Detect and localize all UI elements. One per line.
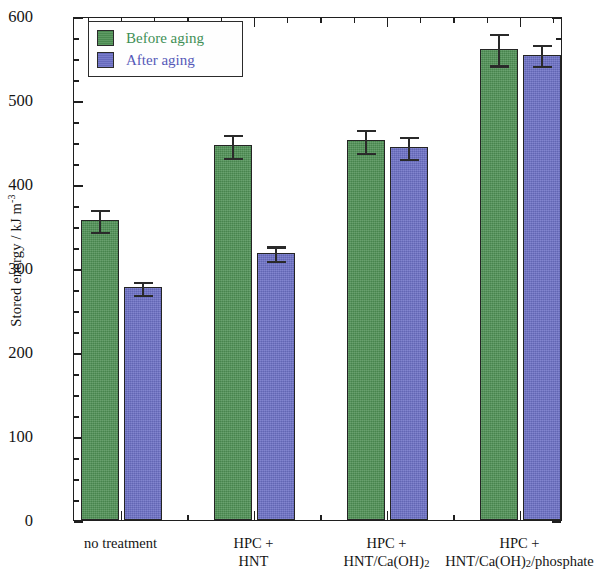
error-bar-cap-upper — [91, 210, 110, 212]
bar-after-aging — [390, 147, 428, 520]
x-tick-major — [387, 511, 388, 520]
y-tick-minor — [74, 311, 79, 312]
legend-label-after-aging: After aging — [126, 53, 195, 68]
x-tick-minor — [487, 18, 488, 23]
error-bar-cap-upper — [533, 45, 552, 47]
y-tick-label: 0 — [25, 511, 33, 531]
y-tick-major — [74, 185, 83, 186]
y-tick-minor — [74, 248, 79, 249]
y-tick-label: 600 — [8, 7, 33, 27]
bar-before-aging — [81, 220, 119, 520]
y-tick-minor — [74, 227, 79, 228]
y-tick-major — [74, 521, 83, 522]
x-tick-minor — [320, 515, 321, 520]
y-tick-label: 300 — [8, 259, 33, 279]
x-tick-minor — [453, 515, 454, 520]
x-tick-major — [254, 511, 255, 520]
y-tick-minor — [74, 164, 79, 165]
x-tick-major — [520, 18, 521, 27]
bar-before-aging — [480, 49, 518, 520]
x-category-label: HPC +HNT/Ca(OH)2 — [344, 535, 430, 570]
y-tick-minor — [74, 290, 79, 291]
y-tick-minor — [74, 416, 79, 417]
x-tick-major — [520, 511, 521, 520]
y-tick-minor — [74, 500, 79, 501]
plot-area: Before aging After aging — [73, 17, 562, 521]
y-tick-minor — [74, 59, 79, 60]
y-tick-label: 400 — [8, 175, 33, 195]
y-tick-minor — [74, 206, 79, 207]
y-tick-label: 100 — [8, 427, 33, 447]
bar-before-aging — [214, 145, 252, 520]
x-category-label: no treatment — [84, 535, 157, 553]
y-tick-minor — [74, 332, 79, 333]
error-bar-cap-upper — [134, 282, 153, 284]
y-tick-major — [74, 17, 83, 18]
error-bar-cap-upper — [267, 246, 286, 248]
y-tick-major — [74, 101, 83, 102]
y-tick-minor — [74, 38, 79, 39]
legend-item-before-aging: Before aging — [97, 27, 236, 49]
x-tick-minor — [287, 18, 288, 23]
y-tick-label: 200 — [8, 343, 33, 363]
x-tick-minor — [420, 18, 421, 23]
error-bar-cap-upper — [490, 34, 509, 36]
x-tick-minor — [354, 18, 355, 23]
y-axis-title-exponent: -3 — [6, 194, 17, 203]
legend-swatch-after-aging — [97, 52, 114, 68]
bar-after-aging — [257, 253, 295, 520]
x-tick-minor — [320, 18, 321, 23]
y-tick-minor — [74, 479, 79, 480]
x-tick-major — [387, 18, 388, 27]
y-tick-minor — [74, 458, 79, 459]
x-category-label: HPC +HNT/Ca(OH)2/phosphate — [445, 535, 594, 570]
bar-after-aging — [523, 55, 561, 520]
x-tick-major — [254, 18, 255, 27]
y-tick-minor — [74, 122, 79, 123]
y-tick-minor — [74, 80, 79, 81]
legend-label-before-aging: Before aging — [126, 31, 204, 46]
y-tick-minor — [74, 143, 79, 144]
legend-item-after-aging: After aging — [97, 49, 236, 71]
stored-energy-bar-chart: Stored energy / kJ m-3 01002003004005006… — [0, 0, 615, 576]
bar-before-aging — [347, 140, 385, 520]
x-tick-major — [121, 511, 122, 520]
legend: Before aging After aging — [88, 21, 243, 77]
error-bar-cap-upper — [357, 130, 376, 132]
x-tick-minor — [553, 18, 554, 23]
x-category-label: HPC +HNT — [233, 535, 273, 570]
y-tick-minor — [74, 374, 79, 375]
x-tick-minor — [453, 18, 454, 23]
bar-after-aging — [124, 287, 162, 520]
error-bar-cap-upper — [400, 137, 419, 139]
error-bar-cap-upper — [224, 135, 243, 137]
y-tick-minor — [556, 38, 561, 39]
y-tick-major — [552, 521, 561, 522]
y-tick-label: 500 — [8, 91, 33, 111]
y-tick-minor — [74, 395, 79, 396]
x-tick-minor — [187, 515, 188, 520]
legend-swatch-before-aging — [97, 30, 114, 46]
